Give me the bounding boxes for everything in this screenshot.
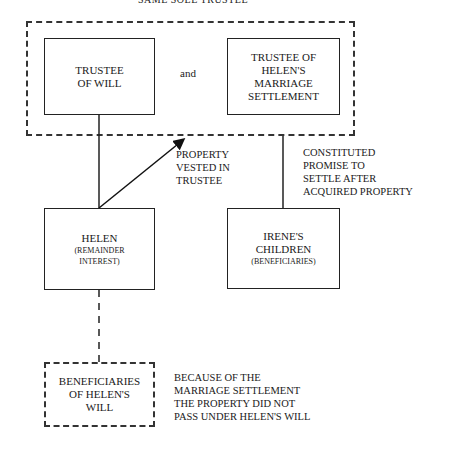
irene-line2: CHILDREN — [256, 243, 312, 256]
arrow-label-line3: TRUSTEE — [176, 174, 230, 187]
promise-line2: PROMISE TO — [303, 159, 413, 172]
beneficiaries-line3: WILL — [86, 401, 113, 414]
irene-line1: IRENE'S — [263, 230, 303, 243]
beneficiaries-box: BENEFICIARIES OF HELEN'S WILL — [44, 362, 155, 427]
irenes-children-box: IRENE'S CHILDREN (BENEFICIARIES) — [227, 208, 340, 289]
property-vested-label: PROPERTY VESTED IN TRUSTEE — [176, 148, 230, 187]
arrow-label-line1: PROPERTY — [176, 148, 230, 161]
conclusion-line4: PASS UNDER HELEN'S WILL — [174, 410, 310, 423]
conclusion-label: BECAUSE OF THE MARRIAGE SETTLEMENT THE P… — [174, 371, 310, 423]
promise-line3: SETTLE AFTER — [303, 172, 413, 185]
beneficiaries-line1: BENEFICIARIES — [59, 375, 140, 388]
conclusion-line3: THE PROPERTY DID NOT — [174, 397, 310, 410]
promise-label: CONSTITUTED PROMISE TO SETTLE AFTER ACQU… — [303, 146, 413, 198]
property-vested-arrow — [99, 140, 183, 208]
arrow-label-line2: VESTED IN — [176, 161, 230, 174]
helen-sub2: INTEREST) — [79, 256, 119, 267]
promise-line1: CONSTITUTED — [303, 146, 413, 159]
conclusion-line1: BECAUSE OF THE — [174, 371, 310, 384]
conclusion-line2: MARRIAGE SETTLEMENT — [174, 384, 310, 397]
promise-line4: ACQUIRED PROPERTY — [303, 185, 413, 198]
helen-title: HELEN — [81, 232, 117, 245]
helen-box: HELEN (REMAINDER INTEREST) — [44, 208, 155, 290]
beneficiaries-line2: OF HELEN'S — [69, 388, 130, 401]
helen-sub1: (REMAINDER — [74, 245, 124, 256]
irene-sub: (BENEFICIARIES) — [251, 256, 315, 267]
